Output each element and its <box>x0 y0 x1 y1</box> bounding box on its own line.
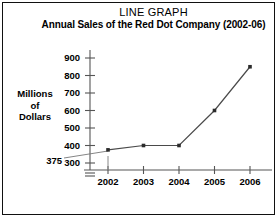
x-tick-label-2002: 2002 <box>88 176 128 187</box>
y-tick-label-300: 300 <box>50 157 80 168</box>
x-tick-label-2004: 2004 <box>159 176 199 187</box>
y-tick-label-900: 900 <box>50 52 80 63</box>
data-point-2003 <box>142 144 146 148</box>
y-tick-label-400: 400 <box>50 140 80 151</box>
data-point-2004 <box>177 144 181 148</box>
data-point-markers <box>106 65 252 152</box>
data-point-2005 <box>213 109 217 113</box>
data-point-2006 <box>248 65 252 69</box>
line-chart: LINE GRAPH Annual Sales of the Red Dot C… <box>0 0 279 219</box>
y-tick-label-500: 500 <box>50 122 80 133</box>
y-tick-label-600: 600 <box>50 105 80 116</box>
x-tick-label-2005: 2005 <box>195 176 235 187</box>
data-series-line <box>108 67 250 150</box>
data-point-2002 <box>106 148 110 152</box>
y-tick-label-800: 800 <box>50 70 80 81</box>
y-tick-label-700: 700 <box>50 87 80 98</box>
x-tick-label-2006: 2006 <box>230 176 270 187</box>
x-tick-label-2003: 2003 <box>124 176 164 187</box>
